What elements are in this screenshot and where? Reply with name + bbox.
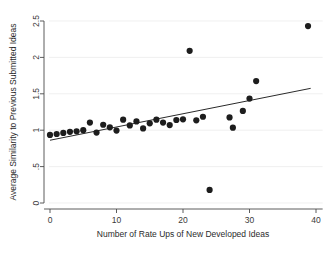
y-tick-label: 1 bbox=[31, 128, 41, 133]
y-tick-label: 2.5 bbox=[31, 15, 41, 27]
data-point bbox=[54, 131, 60, 137]
data-point bbox=[87, 119, 93, 125]
data-point bbox=[173, 117, 179, 123]
data-point bbox=[147, 120, 153, 126]
chart-canvas: 010203040 0.511.522.5 Number of Rate Ups… bbox=[0, 0, 336, 254]
data-point bbox=[74, 128, 80, 134]
data-point bbox=[67, 129, 73, 135]
data-point bbox=[253, 78, 259, 84]
data-point bbox=[60, 130, 66, 136]
y-axis-title: Average Similarity to Previous Submitted… bbox=[8, 23, 18, 200]
data-point bbox=[180, 116, 186, 122]
data-point bbox=[107, 124, 113, 130]
data-point bbox=[47, 132, 53, 138]
data-point bbox=[167, 122, 173, 128]
scatter-plot-figure: 010203040 0.511.522.5 Number of Rate Ups… bbox=[0, 0, 336, 254]
data-point bbox=[80, 127, 86, 133]
data-point bbox=[193, 117, 199, 123]
data-point bbox=[140, 125, 146, 131]
data-point bbox=[226, 114, 232, 120]
data-point bbox=[207, 187, 213, 193]
data-point bbox=[305, 23, 311, 29]
y-tick-label: 1.5 bbox=[31, 88, 41, 100]
x-tick-label: 40 bbox=[311, 215, 321, 225]
data-point bbox=[113, 127, 119, 133]
x-axis-title: Number of Rate Ups of New Developed Idea… bbox=[97, 229, 269, 239]
data-point bbox=[93, 129, 99, 135]
x-tick-label: 0 bbox=[48, 215, 53, 225]
data-point bbox=[200, 114, 206, 120]
data-point bbox=[100, 122, 106, 128]
data-point bbox=[246, 95, 252, 101]
data-point bbox=[127, 122, 133, 128]
data-point bbox=[230, 125, 236, 131]
data-point bbox=[153, 117, 159, 123]
y-tick-label: 2 bbox=[31, 55, 41, 60]
y-tick-label: 0 bbox=[31, 200, 41, 205]
x-tick-label: 20 bbox=[178, 215, 188, 225]
data-point bbox=[187, 48, 193, 54]
data-point bbox=[133, 118, 139, 124]
x-tick-label: 10 bbox=[112, 215, 122, 225]
data-point bbox=[240, 108, 246, 114]
x-tick-label: 30 bbox=[245, 215, 255, 225]
data-point bbox=[120, 117, 126, 123]
data-point bbox=[160, 119, 166, 125]
y-tick-label: .5 bbox=[31, 163, 41, 170]
